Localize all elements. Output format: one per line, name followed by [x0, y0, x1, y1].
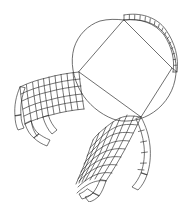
- left-mesh-tail-e: [43, 116, 57, 134]
- mesh-diagram-svg: Surface patch with quadrilateral mesh sh…: [0, 0, 194, 202]
- band-rib-7: [154, 21, 155, 25]
- left-mesh-sheet: [15, 72, 84, 146]
- left-mesh-col-4: [55, 76, 60, 113]
- inscribed-quad-path: [79, 20, 172, 117]
- band-rib-10: [165, 32, 166, 34]
- bottom-mesh-right-flap-b: [132, 173, 147, 190]
- bottom-mesh-sheet: [76, 115, 150, 202]
- top-right-band: [124, 14, 178, 72]
- left-mesh-tail-b: [15, 115, 24, 130]
- band-rib-8: [158, 24, 159, 27]
- left-mesh-col-2: [67, 73, 72, 110]
- left-mesh-col-6: [44, 79, 49, 116]
- rounded-square-outline: [72, 19, 176, 121]
- left-mesh-row-4: [24, 101, 83, 116]
- left-mesh-row-3: [23, 94, 82, 109]
- bottom-mesh-right-rib-3: [141, 152, 147, 153]
- bottom-mesh-col-2: [95, 115, 127, 179]
- inscribed-quadrilateral: [79, 20, 172, 117]
- bottom-mesh-row-0: [93, 116, 141, 140]
- left-mesh-col-1: [73, 73, 78, 110]
- left-mesh-col-3: [61, 74, 66, 111]
- left-mesh-col-5: [49, 77, 54, 114]
- band-rib-9: [162, 28, 163, 31]
- bottom-mesh-right-rib-5: [138, 170, 144, 171]
- figure-root: Surface patch with quadrilateral mesh sh…: [0, 0, 194, 202]
- rounded-square-path: [72, 19, 176, 121]
- left-mesh-row-5: [25, 109, 84, 124]
- bottom-mesh-tail-a: [93, 180, 106, 196]
- bottom-mesh-col-5: [82, 127, 106, 182]
- band-rib-6: [150, 19, 151, 23]
- bottom-mesh-row-1: [90, 124, 137, 148]
- bottom-mesh-right-flap-a: [136, 117, 150, 175]
- bottom-mesh-tail-c: [79, 189, 93, 199]
- left-mesh-tail-a: [15, 87, 25, 116]
- left-mesh-tail-d: [34, 134, 50, 146]
